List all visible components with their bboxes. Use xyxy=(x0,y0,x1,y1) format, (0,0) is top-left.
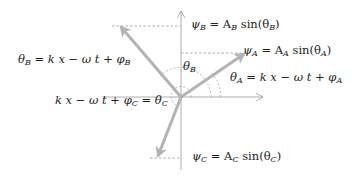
theta-b-equation: θB = k x − ω t + φB xyxy=(18,54,130,67)
phasor-diagram: ψB = AB sin(θB) ψA = AA sin(θA) θB = k x… xyxy=(0,0,357,183)
theta-b-angle-label: θB xyxy=(183,61,196,74)
psi-b-label: ψB = AB sin(θB) xyxy=(191,19,280,32)
psi-a-label: ψA = AA sin(θA) xyxy=(243,45,331,58)
theta-a-equation: θA = k x − ω t + φA xyxy=(230,72,342,85)
theta-c-equation: k x − ω t + φC = θC xyxy=(55,95,168,108)
diagram-canvas xyxy=(0,0,357,183)
psi-c-label: ψC = AC sin(θC) xyxy=(192,151,281,164)
